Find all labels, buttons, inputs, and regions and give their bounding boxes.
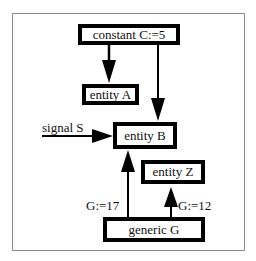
node-entity-b: entity B (113, 122, 177, 149)
node-entity-a: entity A (82, 84, 139, 105)
g17-label: G:=17 (86, 199, 119, 212)
arrow-constant-to-entity-a (102, 45, 116, 83)
node-entity-z: entity Z (141, 160, 205, 184)
node-constant-c-label: constant C:=5 (93, 27, 166, 43)
arrow-generic-to-entity-z (164, 187, 178, 217)
node-entity-b-label: entity B (124, 128, 166, 144)
node-generic-g: generic G (103, 217, 205, 242)
g12-label: G:=12 (178, 199, 211, 212)
node-generic-g-label: generic G (129, 222, 180, 238)
node-entity-z-label: entity Z (153, 164, 194, 180)
signal-s-label: signal S (42, 121, 84, 134)
arrow-constant-to-entity-b (151, 45, 165, 121)
node-entity-a-label: entity A (90, 87, 132, 103)
node-constant-c: constant C:=5 (78, 24, 180, 45)
arrow-generic-to-entity-b (121, 150, 135, 217)
